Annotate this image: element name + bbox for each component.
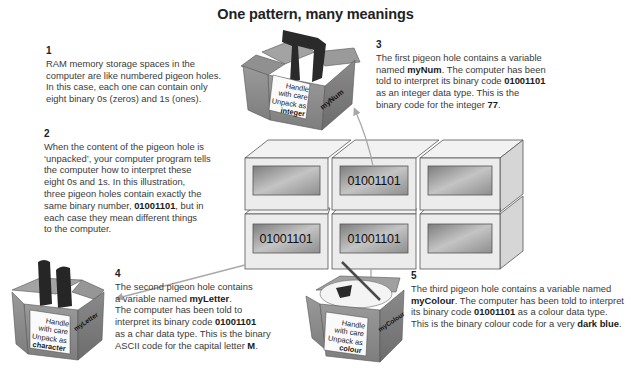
pigeon-hole-value: 01001101 [242,232,330,246]
pigeon-hole-grid [245,140,523,269]
box-label-mycolour: Handle with care Unpack as colour [321,317,365,356]
step-number: 5 [411,270,624,282]
pigeon-hole-value: 01001101 [330,232,418,246]
box-label-mynum: Handle with care Unpack as integer [267,80,310,119]
step-number: 3 [376,39,546,51]
step-number: 4 [115,268,271,280]
box-label-myletter: Handle with care Unpack as character [25,315,69,354]
step-4: 4 The second pigeon hole contains a vari… [115,268,271,352]
step-2: 2 When the content of the pigeon hole is… [44,128,211,235]
pigeon-hole-value: 01001101 [330,174,418,188]
step-1: 1 RAM memory storage spaces in the compu… [46,45,221,105]
step-number: 2 [44,128,211,140]
step-3: 3 The first pigeon hole contains a varia… [376,39,546,111]
step-number: 1 [46,45,221,57]
step-5: 5 The third pigeon hole contains a varia… [411,270,624,330]
